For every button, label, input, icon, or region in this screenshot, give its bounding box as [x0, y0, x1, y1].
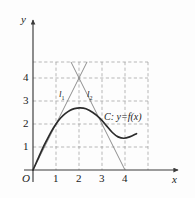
math-figure: y x O 4 3 2 1 1 2 3 4 l1 l2 C: y=f(x) — [0, 0, 195, 198]
origin-label: O — [22, 173, 30, 184]
y-axis-label: y — [21, 14, 26, 25]
x-tick-label-1: 1 — [53, 173, 59, 184]
line-l1-label: l1 — [59, 90, 65, 101]
y-tick-label-4: 4 — [23, 72, 29, 83]
y-tick-label-3: 3 — [23, 95, 29, 106]
plot-canvas — [0, 0, 195, 198]
line-l2-label: l2 — [87, 90, 93, 101]
x-tick-label-2: 2 — [76, 173, 82, 184]
y-tick-label-2: 2 — [23, 118, 29, 129]
y-tick-label-1: 1 — [23, 141, 29, 152]
x-tick-label-4: 4 — [122, 173, 128, 184]
line-l2-subscript: 2 — [90, 95, 93, 101]
line-l1-subscript: 1 — [62, 95, 65, 101]
x-axis-label: x — [172, 174, 177, 185]
curve-label: C: y=f(x) — [104, 112, 142, 122]
x-tick-label-3: 3 — [99, 173, 105, 184]
